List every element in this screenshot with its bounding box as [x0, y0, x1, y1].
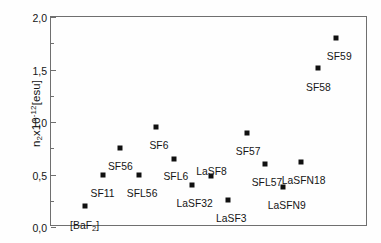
data-point [154, 125, 159, 130]
data-point [137, 172, 142, 177]
data-point-label: SFL6 [163, 171, 188, 182]
data-point-label: LaSF8 [196, 166, 227, 177]
y-axis-tick-major: 2,0 [51, 17, 56, 18]
data-point [245, 130, 250, 135]
data-point [316, 66, 321, 71]
data-point-label: SF56 [108, 161, 133, 172]
data-point [226, 197, 231, 202]
data-point-label: LaSF32 [176, 198, 212, 209]
y-axis-label: n2x10-12[esu] [29, 39, 44, 189]
data-point [298, 159, 303, 164]
data-point-label: SF58 [306, 82, 331, 93]
y-axis-tick-major: 1,5 [51, 70, 56, 71]
data-point [82, 204, 87, 209]
data-point [189, 183, 194, 188]
figure: n2x10-12[esu] 0,00,51,01,52,0[BaF2]SF11S… [0, 0, 381, 243]
data-point-label: LaSF3 [216, 213, 247, 224]
data-point-label: [BaF2] [70, 220, 99, 233]
y-axis-tick-major: 0,0 [51, 227, 56, 228]
data-point-label: SF6 [149, 140, 168, 151]
data-point-label: SFL56 [127, 188, 158, 199]
data-point [334, 36, 339, 41]
data-point [171, 156, 176, 161]
y-axis-tick-major: 1,0 [51, 122, 56, 123]
y-axis-tick-label: 1,5 [32, 65, 47, 77]
data-point [100, 172, 105, 177]
data-point-label: SF59 [327, 51, 352, 62]
y-axis-tick-minor [51, 201, 54, 202]
data-point [118, 146, 123, 151]
y-axis-tick-minor [51, 96, 54, 97]
data-point-label: SF57 [236, 146, 261, 157]
y-axis-tick-minor [51, 43, 54, 44]
data-point-label: SFL57 [252, 177, 283, 188]
data-point-label: SF11 [90, 188, 114, 199]
data-point [262, 162, 267, 167]
y-axis-tick-label: 1,0 [32, 117, 47, 129]
y-axis-tick-major: 0,5 [51, 175, 56, 176]
plot-area: 0,00,51,01,52,0[BaF2]SF11SF56SFL56SF6SFL… [50, 16, 367, 226]
y-axis-tick-label: 0,5 [32, 170, 47, 182]
y-axis-tick-label: 0,0 [32, 222, 47, 234]
y-axis-tick-label: 2,0 [32, 12, 47, 24]
y-axis-tick-minor [51, 148, 54, 149]
data-point-label: LaSFN18 [282, 175, 326, 186]
data-point-label: LaSFN9 [268, 200, 306, 211]
